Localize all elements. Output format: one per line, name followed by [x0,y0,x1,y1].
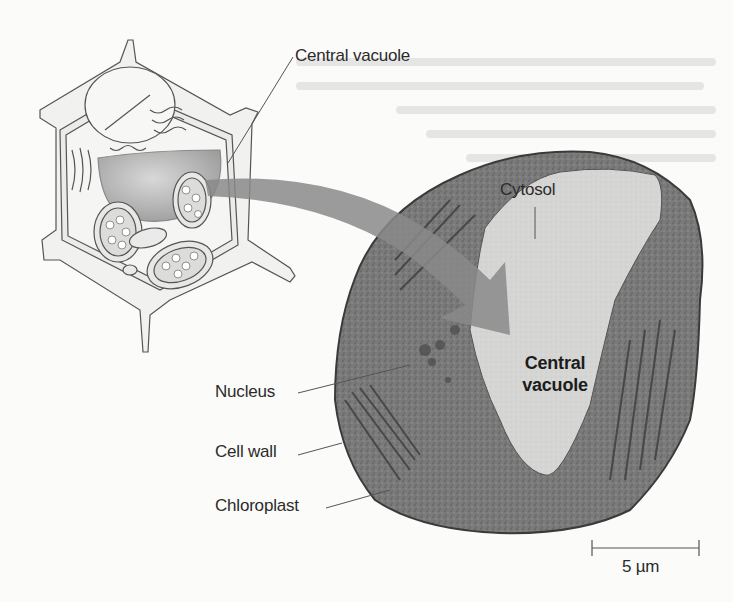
label-cell-wall: Cell wall [215,442,277,462]
label-nucleus: Nucleus [215,382,275,402]
label-central-line1: Central [510,352,600,374]
label-central-vacuole-illustration: Central vacuole [295,46,410,66]
label-cytosol: Cytosol [500,180,555,200]
scale-bar-label: 5 µm [622,557,659,577]
label-vacuole-line2: vacuole [510,374,600,396]
scale-bar [592,540,699,556]
electron-micrograph [335,151,702,533]
figure-graphics [0,0,733,602]
label-chloroplast: Chloroplast [215,496,299,516]
label-central-vacuole-micrograph: Central vacuole [510,352,600,396]
figure-stage: Central vacuole Cytosol Central vacuole … [0,0,733,602]
